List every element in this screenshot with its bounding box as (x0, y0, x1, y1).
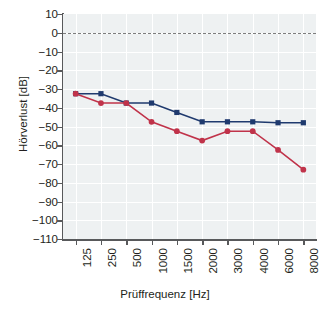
x-tick-mark (303, 240, 304, 245)
y-axis-tick-labels: 100−10−20−30−40−50−60−70−80−90−100−110 (18, 0, 58, 309)
data-point-red (149, 119, 155, 125)
y-tick-mark (57, 14, 63, 15)
data-point-red (275, 147, 281, 153)
y-tick-label: −10 (18, 47, 58, 57)
y-tick-mark (57, 108, 63, 109)
y-tick-label: −60 (18, 140, 58, 150)
data-point-red (250, 128, 256, 134)
y-tick-mark (57, 220, 63, 221)
x-axis-title: Prüffrequenz [Hz] (0, 288, 330, 300)
y-tick-mark (57, 145, 63, 146)
x-tick-mark (253, 240, 254, 245)
series-line-red (76, 94, 304, 170)
data-point-red (225, 128, 231, 134)
y-tick-mark (57, 183, 63, 184)
data-point-red (73, 91, 79, 97)
data-point-red (123, 100, 129, 106)
data-point-blue (301, 120, 306, 125)
x-tick-mark (101, 240, 102, 245)
y-tick-label: −90 (18, 197, 58, 207)
data-point-blue (225, 119, 230, 124)
data-point-blue (275, 120, 280, 125)
data-point-red (300, 167, 306, 173)
y-tick-mark (57, 202, 63, 203)
data-point-blue (174, 110, 179, 115)
y-tick-label: −30 (18, 84, 58, 94)
data-point-blue (250, 119, 255, 124)
series-line-blue (76, 94, 304, 123)
y-tick-label: −80 (18, 178, 58, 188)
y-tick-mark (57, 70, 63, 71)
x-tick-mark (152, 240, 153, 245)
y-tick-label: −100 (18, 215, 58, 225)
y-tick-mark (57, 239, 63, 240)
y-tick-label: 0 (18, 28, 58, 38)
x-tick-mark (126, 240, 127, 245)
data-point-red (174, 128, 180, 134)
data-point-blue (200, 119, 205, 124)
x-tick-mark (202, 240, 203, 245)
y-tick-label: −20 (18, 65, 58, 75)
x-tick-mark (227, 240, 228, 245)
plot-area (63, 14, 316, 239)
data-point-red (199, 138, 205, 144)
y-tick-mark (57, 52, 63, 53)
series-canvas (63, 14, 316, 239)
data-point-blue (149, 100, 154, 105)
y-tick-mark (57, 127, 63, 128)
y-tick-label: 10 (18, 9, 58, 19)
hearing-loss-chart: Hörverlust [dB] 100−10−20−30−40−50−60−70… (0, 0, 330, 309)
y-tick-label: −50 (18, 122, 58, 132)
zero-reference-line (63, 33, 316, 34)
y-tick-mark (57, 164, 63, 165)
x-tick-mark (177, 240, 178, 245)
y-tick-label: −70 (18, 159, 58, 169)
y-tick-mark (57, 89, 63, 90)
data-point-red (98, 100, 104, 106)
data-point-blue (98, 91, 103, 96)
y-tick-label: −40 (18, 103, 58, 113)
x-tick-mark (278, 240, 279, 245)
y-tick-label: −110 (18, 234, 58, 244)
x-tick-mark (76, 240, 77, 245)
y-tick-mark (57, 33, 63, 34)
